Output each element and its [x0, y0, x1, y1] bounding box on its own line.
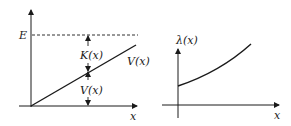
left-x-axis-label: x — [130, 110, 137, 123]
kinetic-label: K(x) — [79, 49, 103, 62]
potential-inside-label: V(x) — [80, 84, 103, 97]
left-diagram: E K(x) V(x) V(x) x — [18, 10, 150, 123]
lambda-axis-label: λ(x) — [175, 34, 198, 47]
right-diagram: λ(x) x — [162, 34, 281, 122]
figure: E K(x) V(x) V(x) x λ(x) x — [0, 0, 291, 126]
energy-label: E — [18, 29, 27, 42]
right-x-axis-label: x — [274, 109, 281, 122]
potential-line-label: V(x) — [127, 55, 150, 68]
lambda-curve — [178, 44, 251, 86]
